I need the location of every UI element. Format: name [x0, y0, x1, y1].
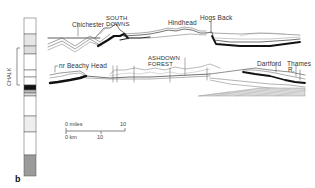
chalk-label: CHALK [6, 68, 12, 86]
column-unit [24, 155, 36, 176]
column-unit [24, 18, 36, 34]
column-unit [24, 116, 36, 132]
column-unit [24, 34, 36, 46]
column-unit [24, 85, 36, 90]
column-unit [24, 93, 36, 96]
column-unit [24, 90, 36, 93]
place-label: Chichester [72, 22, 104, 28]
column-unit [24, 77, 36, 85]
column-unit [24, 46, 36, 54]
cross-section-drawing [0, 0, 315, 188]
column-unit [24, 132, 36, 155]
place-label: Dartford [257, 61, 281, 67]
scale-km-start: 0 km [65, 134, 77, 140]
place-label: DOWNS [106, 22, 130, 28]
chalk-bracket [17, 48, 20, 85]
column-unit [24, 54, 36, 70]
column-unit [24, 70, 36, 77]
panel-letter: b [15, 174, 21, 184]
place-label: Hindhead [168, 20, 197, 26]
scale-miles-end: 10 [120, 121, 126, 127]
column-unit [24, 96, 36, 116]
place-label: nr Beachy Head [59, 63, 107, 69]
stratigraphic-column [24, 18, 36, 176]
scale-miles-start: 0 miles [65, 121, 82, 127]
place-label: Hogs Back [200, 15, 232, 21]
geological-cross-section-figure: CHALK ChichesterSOUTHDOWNSHindheadHogs B… [0, 0, 315, 188]
scale-km-mid: 10 [97, 134, 103, 140]
place-label: FOREST [148, 62, 173, 68]
place-label: R. [288, 67, 295, 73]
